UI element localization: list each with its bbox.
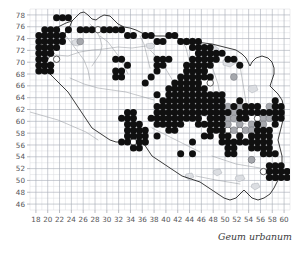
x-axis-tick-label: 34 — [126, 215, 136, 224]
distribution-dot-filled — [272, 121, 279, 128]
x-axis-tick-label: 22 — [55, 215, 64, 224]
x-axis-tick-label: 32 — [114, 215, 123, 224]
distribution-dot-filled — [207, 73, 214, 80]
distribution-dot-filled — [65, 26, 72, 33]
distribution-dot-filled — [47, 50, 54, 57]
distribution-dot-filled — [47, 68, 54, 75]
x-axis-tick-label: 28 — [90, 215, 100, 224]
y-axis-tick-label: 54 — [16, 152, 26, 161]
distribution-dot-filled — [59, 38, 66, 45]
y-axis-tick-label: 70 — [16, 58, 26, 67]
x-axis-tick-label: 38 — [150, 215, 160, 224]
distribution-dot-filled — [165, 56, 172, 63]
x-axis-tick-label: 24 — [67, 215, 77, 224]
distribution-dot-filled — [159, 62, 166, 69]
x-axis-tick-label: 60 — [280, 215, 290, 224]
distribution-dot-filled — [89, 26, 96, 33]
distribution-dot-gray — [266, 115, 273, 122]
distribution-dot-gray — [260, 121, 267, 128]
x-axis-tick-label: 46 — [197, 215, 207, 224]
distribution-map-figure: 7876747270686664626058565452504846 18202… — [0, 0, 303, 253]
y-axis-labels: 7876747270686664626058565452504846 — [16, 11, 26, 209]
y-axis-tick-label: 62 — [16, 105, 25, 114]
y-axis-tick-label: 78 — [16, 11, 26, 20]
x-axis-tick-label: 40 — [161, 215, 171, 224]
distribution-dot-gray — [225, 103, 232, 110]
y-axis-tick-label: 60 — [16, 117, 26, 126]
distribution-dot-open — [254, 115, 260, 121]
y-axis-tick-label: 66 — [16, 81, 26, 90]
distribution-dot-open — [260, 168, 266, 174]
x-axis-tick-label: 50 — [220, 215, 230, 224]
distribution-dot-filled — [142, 79, 149, 86]
distribution-dot-filled — [213, 56, 220, 63]
y-axis-tick-label: 68 — [16, 70, 26, 79]
distribution-dot-filled — [53, 44, 60, 51]
distribution-dot-filled — [124, 139, 131, 146]
distribution-dot-gray — [230, 74, 237, 81]
distribution-dot-open — [207, 80, 213, 86]
distribution-dot-filled — [154, 91, 161, 98]
distribution-dot-filled — [224, 109, 231, 116]
distribution-dot-filled — [124, 62, 131, 69]
distribution-dot-filled — [189, 150, 196, 157]
distribution-dot-filled — [118, 26, 125, 33]
species-caption: Geum urbanum — [218, 231, 292, 242]
distribution-dot-filled — [177, 150, 184, 157]
distribution-dot-filled — [242, 115, 249, 122]
y-axis-tick-label: 64 — [16, 93, 26, 102]
distribution-dot-filled — [284, 174, 291, 181]
x-axis-tick-label: 30 — [102, 215, 112, 224]
distribution-dot-filled — [219, 50, 226, 57]
distribution-dot-open — [95, 26, 101, 32]
distribution-dot-filled — [207, 133, 214, 140]
distribution-dot-filled — [230, 103, 237, 110]
distribution-dot-open — [53, 56, 59, 62]
y-axis-tick-label: 76 — [16, 22, 26, 31]
x-axis-tick-label: 48 — [209, 215, 219, 224]
distribution-dot-filled — [154, 133, 161, 140]
x-axis-tick-label: 26 — [79, 215, 89, 224]
x-axis-tick-label: 56 — [256, 215, 266, 224]
x-axis-tick-label: 44 — [185, 215, 195, 224]
distribution-dot-open — [237, 127, 243, 133]
distribution-dot-filled — [278, 115, 285, 122]
distribution-dot-filled — [118, 56, 125, 63]
map-plot: 7876747270686664626058565452504846 18202… — [0, 0, 303, 253]
y-axis-tick-label: 50 — [16, 176, 26, 185]
distribution-dot-filled — [130, 32, 137, 39]
x-axis-tick-label: 54 — [244, 215, 254, 224]
distribution-dot-gray — [248, 127, 255, 134]
y-axis-tick-label: 58 — [16, 129, 26, 138]
distribution-dot-filled — [236, 97, 243, 104]
y-axis-tick-label: 48 — [16, 188, 26, 197]
distribution-dot-gray — [248, 156, 255, 163]
distribution-dot-gray — [236, 121, 243, 128]
distribution-dot-gray — [77, 38, 84, 45]
distribution-dot-filled — [136, 144, 143, 151]
distribution-dot-open — [130, 139, 136, 145]
x-axis-tick-label: 20 — [43, 215, 53, 224]
distribution-dot-open — [225, 127, 231, 133]
distribution-dot-filled — [230, 56, 237, 63]
distribution-dot-gray — [266, 103, 273, 110]
x-axis-tick-label: 58 — [268, 215, 278, 224]
distribution-dot-filled — [65, 14, 72, 21]
y-axis-tick-label: 46 — [16, 200, 26, 209]
distribution-dot-filled — [236, 62, 243, 69]
distribution-dot-gray — [236, 103, 243, 110]
distribution-dot-filled — [171, 32, 178, 39]
distribution-dot-filled — [189, 139, 196, 146]
distribution-dot-filled — [154, 68, 161, 75]
distribution-dot-gray — [230, 127, 237, 134]
x-axis-tick-label: 42 — [173, 215, 182, 224]
distribution-dot-filled — [207, 62, 214, 69]
y-axis-tick-label: 74 — [16, 34, 26, 43]
distribution-dot-filled — [148, 73, 155, 80]
distribution-dot-filled — [272, 150, 279, 157]
distribution-dot-filled — [230, 150, 237, 157]
y-axis-tick-label: 72 — [16, 46, 25, 55]
distribution-dot-filled — [159, 38, 166, 45]
distribution-dot-filled — [148, 32, 155, 39]
x-axis-tick-label: 36 — [138, 215, 148, 224]
